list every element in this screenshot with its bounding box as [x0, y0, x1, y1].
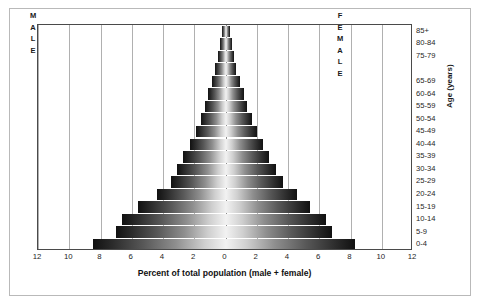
- pyramid-row: [38, 213, 411, 226]
- bar-female: [226, 38, 232, 50]
- bar-female: [226, 88, 245, 100]
- bar-female: [226, 51, 235, 63]
- bar-male: [157, 189, 226, 201]
- bar-male: [196, 126, 226, 138]
- bar-male: [190, 139, 226, 151]
- bar-female: [226, 151, 270, 163]
- pyramid-row: [38, 88, 411, 101]
- bar-female: [226, 201, 310, 213]
- bar-female: [226, 214, 326, 226]
- male-side-label: MALE: [26, 10, 40, 56]
- age-tick-label: 40-44: [416, 139, 435, 148]
- bar-male: [215, 63, 225, 75]
- age-tick-label: 60-64: [416, 89, 435, 98]
- x-tick-label: 6: [316, 252, 320, 261]
- age-axis-tick-labels: 85+80-8475-7965-6960-6455-5950-5445-4940…: [416, 24, 452, 250]
- x-tick-label: 10: [376, 252, 385, 261]
- age-tick-label: 35-39: [416, 151, 435, 160]
- x-tick-label: 12: [408, 252, 417, 261]
- pyramid-row: [38, 176, 411, 189]
- pyramid-row: [38, 113, 411, 126]
- bar-male: [218, 51, 226, 63]
- female-letter: M: [333, 33, 347, 45]
- pyramid-row: [38, 201, 411, 214]
- bar-female: [226, 226, 332, 238]
- female-letter: E: [333, 22, 347, 34]
- pyramid-row: [38, 226, 411, 239]
- bar-female: [226, 101, 248, 113]
- bar-male: [138, 201, 226, 213]
- bar-male: [208, 88, 225, 100]
- female-side-label: FEMALE: [333, 10, 347, 79]
- x-tick-label: 2: [191, 252, 195, 261]
- bar-female: [226, 164, 276, 176]
- pyramid-row: [38, 75, 411, 88]
- bar-male: [183, 151, 225, 163]
- male-letter: L: [26, 33, 40, 45]
- male-letter: A: [26, 22, 40, 34]
- age-tick-label: 25-29: [416, 176, 435, 185]
- x-tick-label: 6: [129, 252, 133, 261]
- bar-male: [116, 226, 225, 238]
- bar-male: [212, 76, 225, 88]
- population-pyramid-figure: MALE FEMALE 85+80-8475-7965-6960-6455-59…: [0, 0, 480, 304]
- x-tick-label: 4: [160, 252, 164, 261]
- age-tick-label: 85+: [416, 26, 429, 35]
- age-tick-label: 15-19: [416, 202, 435, 211]
- bar-male: [122, 214, 225, 226]
- pyramid-row: [38, 38, 411, 51]
- bar-female: [226, 239, 356, 250]
- x-tick-label: 10: [64, 252, 73, 261]
- x-axis-tick-labels: 12108642024681012: [0, 252, 480, 266]
- age-tick-label: 65-69: [416, 76, 435, 85]
- age-tick-label: 10-14: [416, 214, 435, 223]
- age-tick-label: 30-34: [416, 164, 435, 173]
- plot-area: [37, 24, 412, 250]
- pyramid-row: [38, 25, 411, 38]
- female-letter: F: [333, 10, 347, 22]
- x-tick-label: 8: [97, 252, 101, 261]
- bar-female: [226, 63, 237, 75]
- male-letter: M: [26, 10, 40, 22]
- bar-male: [205, 101, 225, 113]
- y-axis-title: Age (years): [445, 64, 454, 108]
- pyramid-row: [38, 238, 411, 250]
- x-axis-title: Percent of total population (male + fema…: [37, 268, 412, 278]
- age-tick-label: 80-84: [416, 38, 435, 47]
- age-tick-label: 20-24: [416, 189, 435, 198]
- pyramid-row: [38, 163, 411, 176]
- bar-female: [226, 189, 298, 201]
- age-tick-label: 50-54: [416, 114, 435, 123]
- bar-female: [226, 26, 231, 38]
- bar-female: [226, 139, 264, 151]
- pyramid-row: [38, 50, 411, 63]
- bar-female: [226, 176, 284, 188]
- x-tick-label: 4: [285, 252, 289, 261]
- pyramid-row: [38, 151, 411, 164]
- female-letter: L: [333, 56, 347, 68]
- age-tick-label: 55-59: [416, 101, 435, 110]
- female-letter: A: [333, 45, 347, 57]
- female-letter: E: [333, 68, 347, 80]
- pyramid-row: [38, 125, 411, 138]
- bar-male: [177, 164, 225, 176]
- age-tick-label: 5-9: [416, 227, 427, 236]
- x-tick-label: 8: [347, 252, 351, 261]
- age-tick-label: 45-49: [416, 126, 435, 135]
- bar-female: [226, 76, 241, 88]
- pyramid-row: [38, 138, 411, 151]
- bar-female: [226, 113, 253, 125]
- bar-male: [201, 113, 226, 125]
- x-tick-label: 0: [222, 252, 226, 261]
- pyramid-row: [38, 63, 411, 76]
- x-tick-label: 12: [33, 252, 42, 261]
- bar-female: [226, 126, 257, 138]
- age-tick-label: 75-79: [416, 51, 435, 60]
- x-tick-label: 2: [254, 252, 258, 261]
- pyramid-row: [38, 188, 411, 201]
- male-letter: E: [26, 45, 40, 57]
- pyramid-row: [38, 100, 411, 113]
- bar-male: [171, 176, 226, 188]
- age-tick-label: 0-4: [416, 239, 427, 248]
- bar-male: [93, 239, 226, 250]
